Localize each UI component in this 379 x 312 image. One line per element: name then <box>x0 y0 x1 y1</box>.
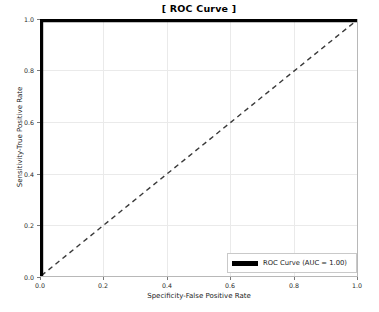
y-tick-mark <box>37 70 40 71</box>
y-tick-mark <box>37 122 40 123</box>
x-tick-mark <box>40 277 41 280</box>
plot-svg <box>40 19 358 277</box>
roc-curve-figure: [ ROC Curve ] ROC Curve (AUC = 1.00) 0 <box>0 0 379 312</box>
chance-diagonal-line <box>42 21 357 276</box>
x-tick-label: 0.6 <box>215 282 245 289</box>
y-tick-label: 0.0 <box>12 274 34 281</box>
y-tick-mark <box>37 277 40 278</box>
x-tick-label: 0.2 <box>88 282 118 289</box>
y-tick-mark <box>37 225 40 226</box>
x-tick-label: 1.0 <box>342 282 372 289</box>
y-tick-label: 0.2 <box>12 222 34 229</box>
x-tick-mark <box>294 277 295 280</box>
y-tick-label: 1.0 <box>12 16 34 23</box>
page-title: [ ROC Curve ] <box>40 3 358 14</box>
x-tick-mark <box>230 277 231 280</box>
chart-legend: ROC Curve (AUC = 1.00) <box>227 253 357 273</box>
x-tick-mark <box>103 277 104 280</box>
y-axis-label: Sensitivity-True Positive Rate <box>16 57 24 217</box>
legend-swatch-roc-curve <box>232 261 258 266</box>
plot-area: ROC Curve (AUC = 1.00) <box>40 19 358 277</box>
x-tick-label: 0.0 <box>25 282 55 289</box>
x-tick-label: 0.4 <box>152 282 182 289</box>
y-tick-mark <box>37 174 40 175</box>
legend-label-roc-curve: ROC Curve (AUC = 1.00) <box>263 259 347 267</box>
x-axis-label: Specificity-False Positive Rate <box>40 292 358 300</box>
x-tick-mark <box>167 277 168 280</box>
x-tick-label: 0.8 <box>279 282 309 289</box>
y-tick-mark <box>37 19 40 20</box>
x-tick-mark <box>357 277 358 280</box>
